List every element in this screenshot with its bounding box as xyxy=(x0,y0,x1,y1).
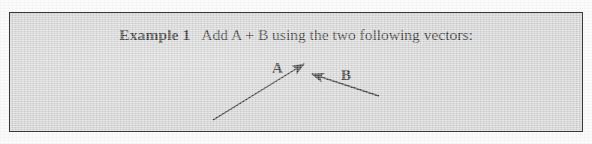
vector-a-arrow xyxy=(213,64,304,120)
vector-diagram xyxy=(10,13,583,132)
example-panel: Example 1Add A + B using the two followi… xyxy=(9,12,583,132)
vector-a-label: A xyxy=(272,60,283,77)
vector-b-label: B xyxy=(341,67,351,84)
scanned-page: Example 1Add A + B using the two followi… xyxy=(0,0,592,144)
